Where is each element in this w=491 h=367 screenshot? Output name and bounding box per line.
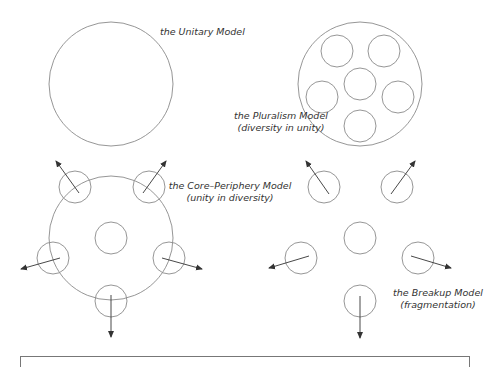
core-periphery-model-label: the Core–Periphery Model (unity in diver… [165,180,295,204]
unitary-model [49,22,173,146]
pluralism-model-subtitle: (diversity in unity) [216,122,346,134]
core-periphery-model-title: the Core–Periphery Model [165,180,295,192]
breakup-model [269,161,451,338]
unitary-model-title: the Unitary Model [160,26,245,38]
pluralism-model-label: the Pluralism Model (diversity in unity) [216,110,346,134]
bottom-frame [20,356,470,367]
core-periphery-model-subtitle: (unity in diversity) [165,192,295,204]
breakup-model-subtitle: (fragmentation) [388,299,488,311]
breakup-model-label: the Breakup Model (fragmentation) [388,287,488,311]
breakup-model-title: the Breakup Model [388,287,488,299]
pluralism-model-title: the Pluralism Model [216,110,346,122]
